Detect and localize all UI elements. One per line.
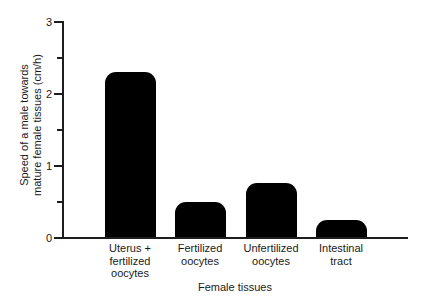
x-axis-title: Female tissues: [62, 281, 408, 293]
bar-intestinal-tract: [316, 220, 367, 238]
y-tick-minor-1p5: [57, 129, 63, 131]
x-tick-label-line: Intestinal: [293, 242, 389, 255]
y-tick-major-1: [54, 165, 63, 167]
y-tick-minor-0p5: [57, 201, 63, 203]
y-tick-label-1: 1: [30, 161, 52, 172]
bar-chart-figure: Speed of a male towards mature female ti…: [0, 0, 427, 301]
y-tick-label-3: 3: [30, 17, 52, 28]
y-tick-major-3: [54, 21, 63, 23]
x-tick-label-line: oocytes: [82, 267, 178, 280]
x-axis-line: [62, 237, 408, 239]
y-tick-label-0: 0: [30, 233, 52, 244]
y-axis-tick-labels: 0 1 2 3: [26, 0, 52, 301]
bar-uterus-fertilized-oocytes: [105, 72, 156, 238]
y-tick-major-2: [54, 93, 63, 95]
bar-fertilized-oocytes: [175, 202, 226, 238]
x-tick-label-intestinal-tract: Intestinal tract: [293, 242, 389, 267]
bar-unfertilized-oocytes: [246, 183, 297, 238]
y-tick-minor-2p5: [57, 57, 63, 59]
y-tick-label-2: 2: [30, 89, 52, 100]
x-tick-label-line: tract: [293, 255, 389, 268]
